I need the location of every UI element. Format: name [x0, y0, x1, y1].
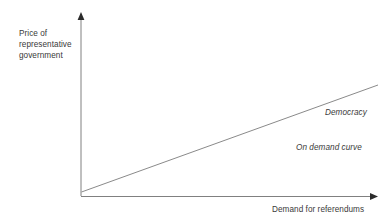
diagram-canvas: Price ofrepresentativegovernment Demand … — [0, 0, 390, 222]
curve-name-annotation: Democracy — [325, 107, 367, 118]
x-axis-arrowhead-icon — [370, 193, 378, 200]
y-axis-label: Price ofrepresentativegovernment — [19, 28, 87, 61]
y-axis-label-line-3: government — [19, 51, 63, 60]
curve-note-annotation: On demand curve — [296, 142, 362, 153]
y-axis-label-line-2: representative — [19, 40, 72, 49]
y-axis-arrowhead-icon — [78, 12, 85, 20]
y-axis-label-line-1: Price of — [19, 29, 47, 38]
demand-curve-line — [82, 85, 379, 192]
x-axis-label: Demand for referendums — [272, 204, 364, 215]
